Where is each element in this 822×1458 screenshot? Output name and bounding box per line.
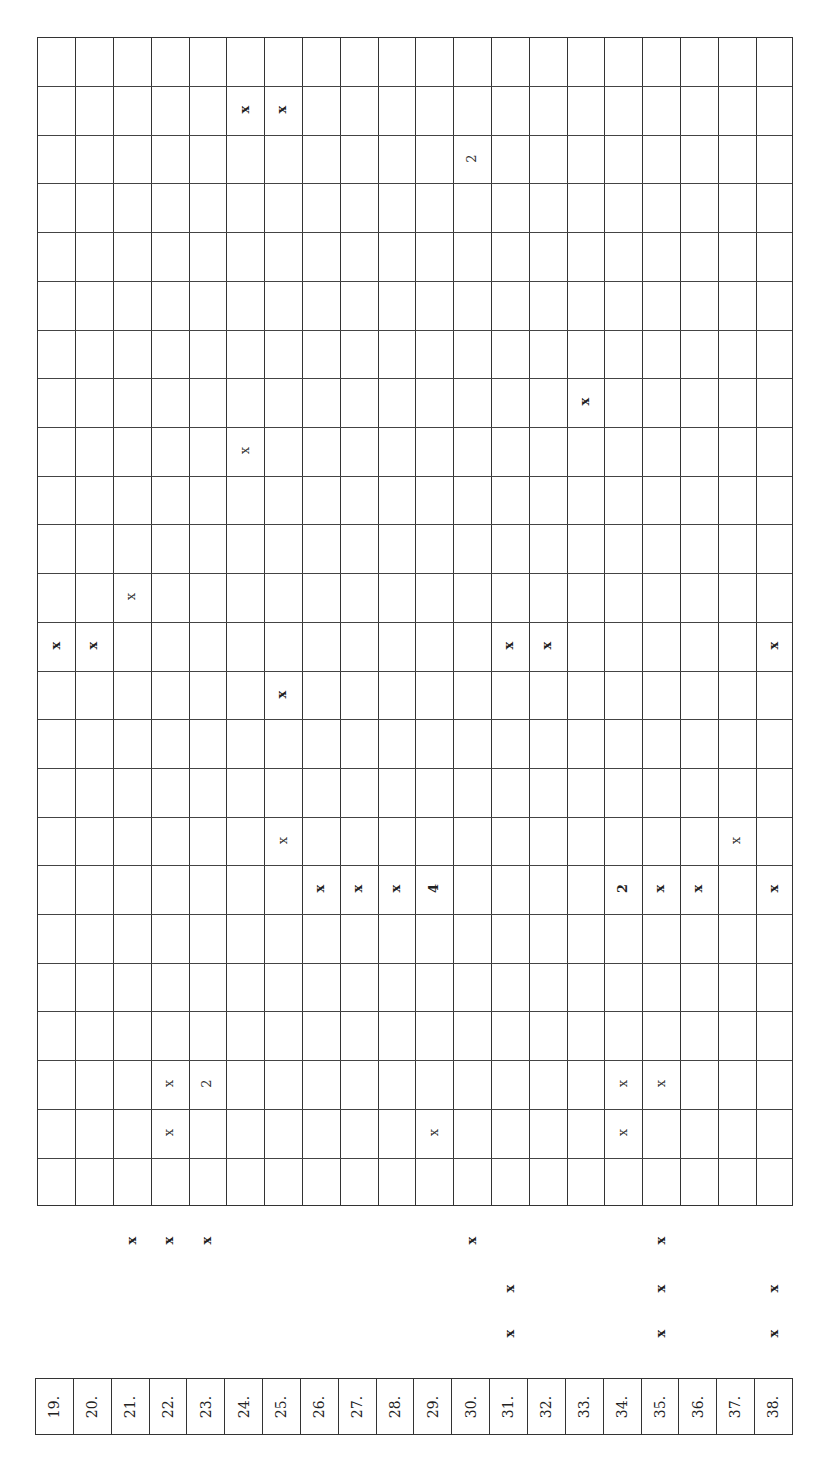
column-label-cell: 35.: [642, 1379, 680, 1434]
grid-mark: x: [415, 1108, 453, 1157]
grid-mark: 2: [188, 1059, 226, 1108]
grid-mark: x: [566, 377, 604, 426]
column-label-cell: 21.: [112, 1379, 150, 1434]
grid-mark-text: x: [351, 885, 364, 893]
column-label-cell: 36.: [679, 1379, 717, 1434]
column-label-cell: 22.: [150, 1379, 188, 1434]
column-label: 30.: [463, 1395, 479, 1417]
outside-mark: x: [642, 1278, 680, 1298]
grid-row-divider: [38, 86, 792, 87]
grid-mark: x: [604, 1059, 642, 1108]
column-label: 27.: [349, 1395, 365, 1417]
grid-row-divider: [38, 573, 792, 574]
grid-row-divider: [38, 135, 792, 136]
outside-mark-text: x: [502, 1284, 517, 1292]
grid-mark: x: [339, 865, 377, 914]
column-label: 22.: [160, 1395, 176, 1417]
grid-mark-text: x: [540, 641, 553, 649]
grid-row-divider: [38, 1011, 792, 1012]
grid-row-divider: [38, 671, 792, 672]
grid-mark-text: 2: [200, 1080, 213, 1088]
column-label: 20.: [84, 1395, 100, 1417]
grid-row-divider: [38, 232, 792, 233]
column-label-cell: 24.: [225, 1379, 263, 1434]
column-label-cell: 30.: [452, 1379, 490, 1434]
outside-mark-text: x: [767, 1329, 782, 1337]
grid-mark-text: x: [389, 885, 402, 893]
column-label: 19.: [46, 1395, 62, 1417]
column-label: 36.: [690, 1395, 706, 1417]
grid-mark: x: [263, 816, 301, 865]
grid-mark-text: x: [238, 447, 251, 454]
grid-mark-text: x: [238, 106, 251, 114]
column-label-cell: 27.: [339, 1379, 377, 1434]
grid-mark: x: [150, 1059, 188, 1108]
column-label: 29.: [425, 1395, 441, 1417]
grid-mark-text: x: [276, 106, 289, 114]
grid-mark-text: x: [124, 593, 137, 600]
grid-mark: x: [528, 621, 566, 670]
column-label-cell: 34.: [604, 1379, 642, 1434]
grid-row-divider: [38, 476, 792, 477]
grid-mark: x: [37, 621, 75, 670]
grid-mark: 2: [452, 134, 490, 183]
grid-mark-text: 4: [427, 884, 440, 893]
grid-mark: x: [755, 621, 793, 670]
grid-mark: x: [263, 85, 301, 134]
grid-row-divider: [38, 427, 792, 428]
grid-mark: x: [226, 85, 264, 134]
outside-mark-text: x: [162, 1236, 177, 1244]
grid-mark: x: [755, 865, 793, 914]
column-label-cell: 29.: [414, 1379, 452, 1434]
grid-mark-text: x: [427, 1129, 440, 1136]
grid-mark-text: x: [654, 1080, 667, 1087]
column-label-cell: 31.: [490, 1379, 528, 1434]
grid-mark-text: x: [313, 885, 326, 893]
column-label: 38.: [765, 1395, 781, 1417]
outside-mark: x: [642, 1230, 680, 1250]
marking-grid: xx2xxxxxxxxxxxxxx42xxxx2xxxxx: [37, 37, 793, 1206]
column-label: 37.: [728, 1395, 744, 1417]
grid-mark: x: [679, 865, 717, 914]
outside-mark: x: [491, 1278, 529, 1298]
grid-row-divider: [38, 524, 792, 525]
grid-mark-text: 2: [616, 884, 629, 893]
grid-row-divider: [38, 719, 792, 720]
grid-row-divider: [38, 768, 792, 769]
column-label: 28.: [387, 1395, 403, 1417]
grid-row-divider: [38, 1158, 792, 1159]
grid-row-divider: [38, 378, 792, 379]
grid-mark: x: [377, 865, 415, 914]
grid-mark-text: x: [49, 641, 62, 649]
column-label-cell: 25.: [263, 1379, 301, 1434]
grid-mark: x: [641, 865, 679, 914]
outside-mark-text: x: [200, 1236, 215, 1244]
grid-mark: x: [112, 572, 150, 621]
grid-mark-text: x: [729, 837, 742, 844]
outside-mark-text: x: [464, 1236, 479, 1244]
column-label: 35.: [652, 1395, 668, 1417]
grid-mark-text: x: [691, 885, 704, 893]
outside-mark: x: [453, 1230, 491, 1250]
outside-mark-text: x: [653, 1236, 668, 1244]
column-labels-row: 19.20.21.22.23.24.25.26.27.28.29.30.31.3…: [35, 1378, 793, 1435]
column-label: 32.: [538, 1395, 554, 1417]
column-label: 31.: [501, 1395, 517, 1417]
outside-mark-text: x: [124, 1236, 139, 1244]
column-label-cell: 26.: [301, 1379, 339, 1434]
grid-mark-text: x: [276, 837, 289, 844]
column-label-cell: 32.: [528, 1379, 566, 1434]
grid-mark: x: [301, 865, 339, 914]
column-label: 21.: [122, 1395, 138, 1417]
outside-mark: x: [188, 1230, 226, 1250]
grid-mark-text: x: [87, 641, 100, 649]
outside-mark: x: [491, 1323, 529, 1343]
grid-mark-text: x: [767, 885, 780, 893]
outside-mark: x: [755, 1323, 793, 1343]
column-label: 26.: [311, 1395, 327, 1417]
grid-mark: x: [490, 621, 528, 670]
grid-mark-text: x: [162, 1080, 175, 1087]
grid-row-divider: [38, 281, 792, 282]
grid-mark-text: x: [767, 641, 780, 649]
grid-row-divider: [38, 963, 792, 964]
